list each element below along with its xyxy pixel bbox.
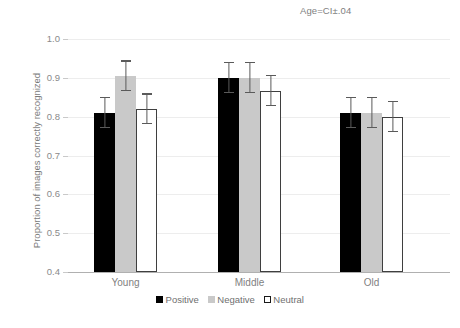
legend-swatch-neutral-icon xyxy=(264,296,271,303)
y-axis-tick-labels: 1.00.90.80.70.60.50.4 xyxy=(26,39,60,272)
y-tick-label: 0.7 xyxy=(26,150,60,161)
legend-label: Positive xyxy=(166,294,199,305)
y-tick-label: 0.5 xyxy=(26,227,60,238)
bar-young-neutral xyxy=(136,109,157,272)
bar-middle-neutral xyxy=(260,91,281,272)
legend-item-negative[interactable]: Negative xyxy=(208,294,255,305)
chart-legend: PositiveNegativeNeutral xyxy=(0,294,460,305)
category-label-young: Young xyxy=(112,277,140,288)
bar-chart: Age=CI±.04 Proportion of images correctl… xyxy=(0,0,460,328)
chart-annotation: Age=CI±.04 xyxy=(300,5,351,16)
y-tick-mark xyxy=(63,78,68,79)
legend-label: Neutral xyxy=(273,294,304,305)
bar-middle-positive xyxy=(218,78,239,272)
gridline xyxy=(68,39,450,40)
legend-item-neutral[interactable]: Neutral xyxy=(264,294,304,305)
bar-old-neutral xyxy=(382,117,403,272)
y-tick-label: 0.4 xyxy=(26,266,60,277)
bar-young-negative xyxy=(115,76,136,272)
legend-swatch-negative-icon xyxy=(208,296,215,303)
y-tick-label: 1.0 xyxy=(26,33,60,44)
bar-young-positive xyxy=(94,113,115,272)
y-tick-mark xyxy=(63,39,68,40)
category-label-old: Old xyxy=(364,277,380,288)
y-tick-mark xyxy=(63,117,68,118)
plot-area xyxy=(68,39,450,272)
y-tick-mark xyxy=(63,194,68,195)
y-tick-label: 0.8 xyxy=(26,111,60,122)
y-tick-mark xyxy=(63,272,68,273)
bar-middle-negative xyxy=(239,78,260,272)
bar-old-negative xyxy=(361,113,382,272)
y-tick-mark xyxy=(63,156,68,157)
y-tick-label: 0.9 xyxy=(26,72,60,83)
legend-item-positive[interactable]: Positive xyxy=(156,294,199,305)
legend-swatch-positive-icon xyxy=(156,296,163,303)
x-axis-line xyxy=(68,272,450,273)
y-tick-mark xyxy=(63,233,68,234)
bar-old-positive xyxy=(340,113,361,272)
y-tick-label: 0.6 xyxy=(26,188,60,199)
category-label-middle: Middle xyxy=(235,277,264,288)
legend-label: Negative xyxy=(217,294,255,305)
